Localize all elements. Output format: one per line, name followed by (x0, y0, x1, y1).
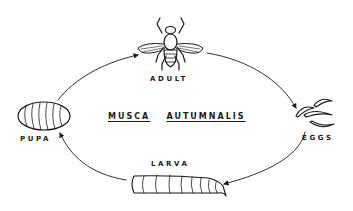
title-genus: MUSCA (108, 112, 150, 121)
arrow-eggs-to-larva (224, 132, 305, 184)
pupa-icon (18, 102, 70, 130)
arrow-larva-to-pupa (60, 133, 126, 180)
arrow-pupa-to-adult (58, 55, 138, 100)
title-species: AUTUMNALIS (166, 112, 245, 121)
adult-fly-icon (138, 18, 203, 70)
eggs-label: EGGS (302, 134, 334, 142)
pupa-label: PUPA (20, 135, 51, 143)
adult-label: ADULT (150, 75, 188, 83)
eggs-icon (296, 99, 334, 126)
arrow-adult-to-eggs (207, 53, 296, 108)
diagram-title: MUSCA AUTUMNALIS (108, 104, 246, 123)
larva-label: LARVA (151, 160, 190, 168)
larva-icon (132, 175, 226, 196)
